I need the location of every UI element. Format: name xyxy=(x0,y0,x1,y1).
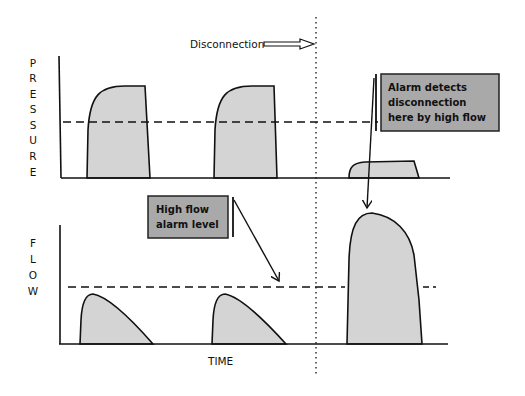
pressure-y-axis xyxy=(59,56,61,178)
alarm-box-line-3: here by high flow xyxy=(388,112,486,123)
axis-letter: P xyxy=(30,57,36,69)
flow-waveform-breath-1 xyxy=(80,294,153,344)
disconnection-hollow-arrow-icon xyxy=(264,39,314,49)
high-flow-alarm-box xyxy=(148,196,228,238)
pressure-waveform-breath-2 xyxy=(214,86,277,178)
axis-letter: R xyxy=(29,72,36,84)
high-flow-alarm-callout: High flow alarm level xyxy=(148,196,279,281)
pressure-waveform-disconnected xyxy=(349,161,419,178)
alarm-box-line-2: disconnection xyxy=(388,97,466,108)
axis-letter: F xyxy=(30,237,36,249)
axis-letter: O xyxy=(29,269,37,281)
high-flow-arrow-icon xyxy=(234,200,279,281)
flow-axis-label: F L O W xyxy=(28,237,39,297)
axis-letter: R xyxy=(29,150,36,162)
ventilator-alarm-diagram: P R E S S U R E F L O W xyxy=(0,0,525,396)
alarm-detects-callout: Alarm detects disconnection here by high… xyxy=(367,74,499,208)
flow-waveform-breath-2 xyxy=(212,294,286,344)
axis-letter: S xyxy=(30,119,37,131)
flow-waveform-disconnected xyxy=(347,213,422,344)
axis-letter: L xyxy=(30,253,36,265)
axis-letter: W xyxy=(28,285,39,297)
time-axis-label: TIME xyxy=(207,355,233,367)
axis-letter: S xyxy=(30,103,37,115)
pressure-axis-label: P R E S S U R E xyxy=(29,57,37,178)
flow-panel: F L O W TIME xyxy=(28,213,448,367)
high-flow-box-line-1: High flow xyxy=(156,204,209,215)
pressure-waveform-breath-1 xyxy=(87,86,150,178)
alarm-arrow-icon xyxy=(367,78,374,208)
axis-letter: E xyxy=(30,166,37,178)
alarm-box-line-1: Alarm detects xyxy=(388,82,467,93)
high-flow-box-line-2: alarm level xyxy=(156,219,219,230)
axis-letter: E xyxy=(30,88,37,100)
axis-letter: U xyxy=(29,134,37,146)
disconnection-label: Disconnection xyxy=(190,38,264,50)
